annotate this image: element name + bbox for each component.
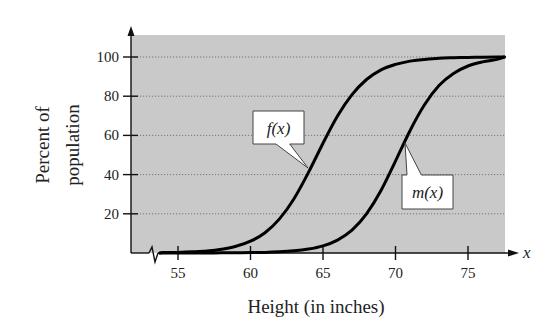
x-tick-label: 75 — [461, 265, 476, 281]
y-axis-arrow-icon — [128, 26, 135, 36]
x-axis-arrow-icon — [508, 250, 519, 257]
plot-area — [131, 35, 505, 253]
y-axis-title-line-2: population — [62, 104, 83, 186]
callout-label: f(x) — [267, 119, 291, 138]
chart: x 5560657075 20406080100 f(x)m(x) Height… — [0, 0, 558, 328]
y-tick-label: 100 — [97, 49, 120, 65]
y-tick-label: 60 — [104, 127, 119, 143]
y-axis-title: Percent of population — [32, 104, 83, 186]
x-axis-symbol: x — [522, 243, 531, 262]
y-axis-title-line-1: Percent of — [32, 106, 53, 184]
y-tick-label: 20 — [104, 206, 119, 222]
x-axis-title: Height (in inches) — [247, 296, 384, 318]
x-tick-label: 70 — [388, 265, 403, 281]
y-tick-label: 40 — [104, 167, 119, 183]
x-tick-label: 55 — [171, 265, 186, 281]
y-tick-label: 80 — [104, 88, 119, 104]
x-tick-label: 60 — [243, 265, 258, 281]
callout-label: m(x) — [412, 183, 443, 202]
x-tick-label: 65 — [316, 265, 331, 281]
